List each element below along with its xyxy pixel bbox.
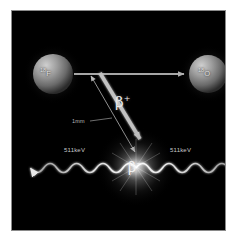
range-leader-line	[90, 118, 112, 121]
parent-nuclide-sphere	[33, 54, 73, 94]
diagram-canvas	[12, 11, 225, 230]
figure-root: 18F 18O β+ β− 1mm 511keV 511keV	[0, 0, 237, 242]
diagram-frame: 18F 18O β+ β− 1mm 511keV 511keV	[11, 10, 226, 231]
